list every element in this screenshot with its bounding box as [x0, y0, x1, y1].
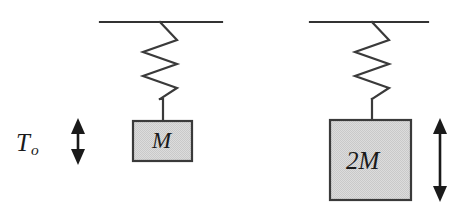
- spring-mass-diagram: To M 2M: [0, 0, 474, 213]
- mass-block-left: [133, 121, 192, 161]
- diagram-canvas: [0, 0, 474, 213]
- spring-connector-left: [160, 99, 163, 121]
- mass-block-right: [330, 120, 411, 200]
- arrow-head-down-left: [71, 149, 85, 165]
- arrow-head-up-right: [433, 118, 447, 134]
- arrow-head-down-right: [433, 186, 447, 202]
- spring-right: [355, 22, 389, 99]
- amplitude-arrow-left: [71, 118, 85, 165]
- amplitude-arrow-right: [433, 118, 447, 202]
- arrow-head-up-left: [71, 118, 85, 134]
- spring-left: [143, 22, 177, 99]
- left-system: [71, 22, 222, 165]
- right-system: [310, 22, 447, 202]
